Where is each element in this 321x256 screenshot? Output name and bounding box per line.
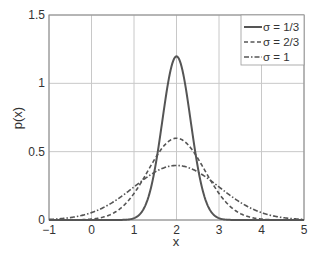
x-tick-label: 3 xyxy=(216,223,223,237)
legend-label: σ = 1/3 xyxy=(263,21,299,33)
legend: σ = 1/3σ = 2/3σ = 1 xyxy=(241,15,304,65)
x-tick-label: 4 xyxy=(258,223,265,237)
y-tick-label: 1 xyxy=(38,76,45,90)
x-tick-label: 0 xyxy=(88,223,95,237)
y-tick-label: 0.5 xyxy=(28,145,45,159)
x-axis-label: x xyxy=(173,234,180,249)
y-tick-label: 0 xyxy=(38,213,45,227)
legend-label: σ = 1 xyxy=(263,51,290,63)
y-axis-label: p(x) xyxy=(10,107,25,129)
gaussian-chart: −101234500.511.5 x p(x) σ = 1/3σ = 2/3σ … xyxy=(0,0,321,256)
y-tick-label: 1.5 xyxy=(28,8,45,22)
x-tick-label: 5 xyxy=(301,223,308,237)
legend-label: σ = 2/3 xyxy=(263,36,299,48)
x-tick-label: 1 xyxy=(131,223,138,237)
